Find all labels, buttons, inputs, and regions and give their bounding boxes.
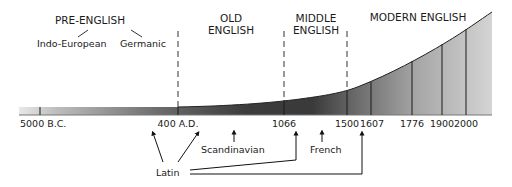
tick-labels: 5000 B.C. 400 A.D. 1066 1500 1607 1776 1… xyxy=(20,118,478,129)
period-old-english-line1: OLD xyxy=(220,12,242,24)
branch-line-indo-european xyxy=(78,30,88,37)
period-modern-english: MODERN ENGLISH xyxy=(370,11,467,23)
tick-label-2000: 2000 xyxy=(454,118,478,129)
branch-line-germanic xyxy=(131,30,142,37)
branch-indo-european: Indo-European xyxy=(37,38,107,49)
english-history-diagram: PRE-ENGLISH OLD ENGLISH MIDDLE ENGLISH M… xyxy=(0,0,512,187)
period-old-english-line2: ENGLISH xyxy=(208,24,254,36)
latin-arrow-2 xyxy=(178,133,198,162)
tick-label-5000bc: 5000 B.C. xyxy=(20,118,66,129)
branch-germanic: Germanic xyxy=(120,38,166,49)
influence-latin: Latin xyxy=(156,167,180,178)
latin-arrow-1 xyxy=(153,133,163,162)
tick-label-1500: 1500 xyxy=(335,118,359,129)
tick-label-1066: 1066 xyxy=(272,118,296,129)
tick-label-1607: 1607 xyxy=(360,118,384,129)
tick-label-400ad: 400 A.D. xyxy=(158,118,199,129)
growth-curve-area xyxy=(19,12,492,115)
tick-label-1900: 1900 xyxy=(430,118,454,129)
period-middle-english-line2: ENGLISH xyxy=(293,24,339,36)
period-pre-english: PRE-ENGLISH xyxy=(55,14,125,26)
tick-label-1776: 1776 xyxy=(400,118,424,129)
influence-scandinavian: Scandinavian xyxy=(201,144,265,155)
period-middle-english-line1: MIDDLE xyxy=(296,12,337,24)
influence-french: French xyxy=(310,144,342,155)
